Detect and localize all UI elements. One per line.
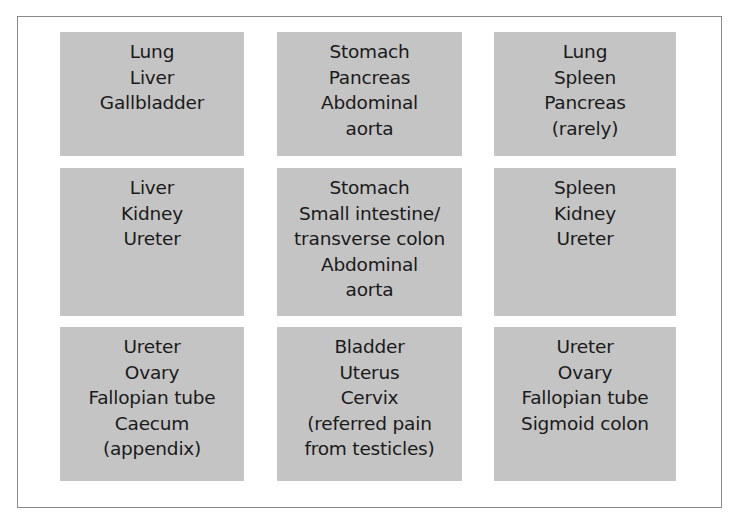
region-right-lumbar: Liver Kidney Ureter	[60, 168, 244, 316]
region-line: Sigmoid colon	[494, 411, 676, 437]
region-line: Abdominal	[277, 90, 462, 116]
region-line: Pancreas	[494, 90, 676, 116]
region-line: Fallopian tube	[60, 385, 244, 411]
region-line: from testicles)	[277, 436, 462, 462]
region-umbilical: Stomach Small intestine/ transverse colo…	[277, 168, 462, 316]
region-line: Kidney	[60, 201, 244, 227]
region-left-lumbar: Spleen Kidney Ureter	[494, 168, 676, 316]
region-line: Gallbladder	[60, 90, 244, 116]
region-right-upper: Lung Liver Gallbladder	[60, 32, 244, 156]
region-line: Ureter	[494, 334, 676, 360]
region-suprapubic: Bladder Uterus Cervix (referred pain fro…	[277, 327, 462, 481]
region-line: Caecum	[60, 411, 244, 437]
region-line: Ureter	[60, 226, 244, 252]
region-epigastric: Stomach Pancreas Abdominal aorta	[277, 32, 462, 156]
region-line: aorta	[277, 277, 462, 303]
region-line: Ureter	[60, 334, 244, 360]
region-line: Ovary	[494, 360, 676, 386]
region-line: Liver	[60, 175, 244, 201]
region-left-iliac: Ureter Ovary Fallopian tube Sigmoid colo…	[494, 327, 676, 481]
region-line: aorta	[277, 116, 462, 142]
region-line: Lung	[60, 39, 244, 65]
region-line: Bladder	[277, 334, 462, 360]
region-line: Liver	[60, 65, 244, 91]
region-line: Kidney	[494, 201, 676, 227]
region-line: (rarely)	[494, 116, 676, 142]
region-right-iliac: Ureter Ovary Fallopian tube Caecum (appe…	[60, 327, 244, 481]
region-line: Uterus	[277, 360, 462, 386]
region-left-upper: Lung Spleen Pancreas (rarely)	[494, 32, 676, 156]
region-line: Small intestine/	[277, 201, 462, 227]
region-line: Cervix	[277, 385, 462, 411]
region-line: Ovary	[60, 360, 244, 386]
region-line: (referred pain	[277, 411, 462, 437]
region-line: Stomach	[277, 175, 462, 201]
region-line: Spleen	[494, 65, 676, 91]
region-line: transverse colon	[277, 226, 462, 252]
region-line: (appendix)	[60, 436, 244, 462]
region-line: Spleen	[494, 175, 676, 201]
region-line: Ureter	[494, 226, 676, 252]
region-line: Pancreas	[277, 65, 462, 91]
region-line: Fallopian tube	[494, 385, 676, 411]
region-line: Abdominal	[277, 252, 462, 278]
region-line: Stomach	[277, 39, 462, 65]
region-line: Lung	[494, 39, 676, 65]
